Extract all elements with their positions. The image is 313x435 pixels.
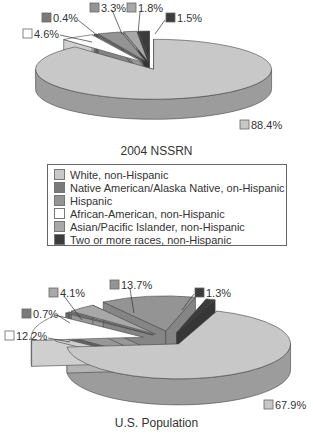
label-swatch	[127, 3, 136, 12]
legend-swatch	[54, 182, 65, 193]
legend-swatch	[54, 234, 65, 245]
legend-swatch	[54, 221, 65, 232]
legend-item-hispanic: Hispanic	[54, 194, 286, 207]
label-swatch	[240, 120, 249, 129]
legend-item-white: White, non-Hispanic	[54, 168, 286, 181]
legend-item-two-or-more: Two or more races, non-Hispanic	[54, 233, 286, 246]
slice-label: 3.3%	[101, 2, 126, 14]
pie-2004-nssrn: 88.4%4.6%0.4%3.3%1.8%1.5%	[23, 2, 282, 131]
slice-label: 1.5%	[177, 12, 202, 24]
slice-label: 4.1%	[60, 287, 85, 299]
pie-us-population: 67.9%12.2%0.7%4.1%13.7%1.3%	[5, 279, 306, 411]
legend-item-native-american: Native American/Alaska Native, on-Hispan…	[54, 181, 286, 194]
label-swatch	[23, 29, 32, 38]
label-swatch	[22, 309, 31, 318]
legend-swatch	[54, 169, 65, 180]
pie-slice	[36, 39, 272, 99]
slice-label: 1.3%	[206, 287, 231, 299]
legend-item-asian: Asian/Pacific Islander, non-Hispanic	[54, 220, 286, 233]
legend-item-african-american: African-American, non-Hispanic	[54, 207, 286, 220]
slice-label: 88.4%	[251, 119, 282, 131]
label-swatch	[5, 331, 14, 340]
label-swatch	[110, 280, 119, 289]
chart-title-us-population: U.S. Population	[0, 416, 313, 430]
slice-label: 0.7%	[33, 308, 58, 320]
label-swatch	[90, 3, 99, 12]
label-swatch	[264, 400, 273, 409]
slice-label: 1.8%	[138, 2, 163, 14]
label-swatch	[166, 13, 175, 22]
chart-title-nssrn: 2004 NSSRN	[0, 144, 313, 158]
label-swatch	[42, 13, 51, 22]
label-swatch	[49, 288, 58, 297]
slice-label: 4.6%	[34, 28, 59, 40]
label-swatch	[195, 288, 204, 297]
slice-label: 12.2%	[16, 330, 47, 342]
legend-swatch	[54, 208, 65, 219]
legend-swatch	[54, 195, 65, 206]
slice-label: 13.7%	[121, 279, 152, 291]
slice-label: 67.9%	[275, 399, 306, 411]
legend: White, non-Hispanic Native American/Alas…	[47, 164, 287, 246]
slice-label: 0.4%	[53, 12, 78, 24]
